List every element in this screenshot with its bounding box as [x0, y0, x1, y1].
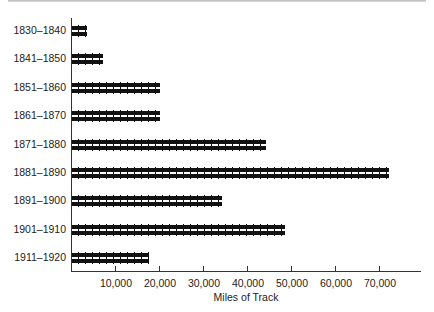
category-label: 1891–1900: [0, 194, 66, 206]
bar-1830–1840: [72, 25, 87, 37]
x-axis: [71, 271, 421, 272]
x-tick: [291, 266, 292, 271]
x-tick-label: 70,000: [364, 277, 396, 289]
category-label: 1841–1850: [0, 52, 66, 64]
x-tick: [159, 266, 160, 271]
x-tick-label: 30,000: [188, 277, 220, 289]
bar-1851–1860: [72, 82, 160, 94]
x-tick-label: 10,000: [100, 277, 132, 289]
bar-1901–1910: [72, 224, 285, 236]
bar-1911–1920: [72, 252, 149, 264]
x-tick: [335, 266, 336, 271]
x-tick: [247, 266, 248, 271]
category-label: 1830–1840: [0, 24, 66, 36]
category-label: 1911–1920: [0, 251, 66, 263]
category-label: 1871–1880: [0, 138, 66, 150]
x-tick-label: 50,000: [276, 277, 308, 289]
bar-1861–1870: [72, 110, 160, 122]
x-tick: [379, 266, 380, 271]
bar-1841–1850: [72, 53, 103, 65]
x-axis-label: Miles of Track: [214, 291, 279, 303]
category-label: 1861–1870: [0, 109, 66, 121]
bar-1881–1890: [72, 167, 389, 179]
x-tick: [203, 266, 204, 271]
category-label: 1881–1890: [0, 166, 66, 178]
x-tick: [115, 266, 116, 271]
category-label: 1901–1910: [0, 223, 66, 235]
x-tick-label: 40,000: [232, 277, 264, 289]
bar-chart: Miles of Track 10,00020,00030,00040,0005…: [0, 0, 434, 312]
bar-1871–1880: [72, 139, 266, 151]
category-label: 1851–1860: [0, 81, 66, 93]
x-tick-label: 20,000: [144, 277, 176, 289]
x-tick-label: 60,000: [320, 277, 352, 289]
bar-1891–1900: [72, 195, 222, 207]
